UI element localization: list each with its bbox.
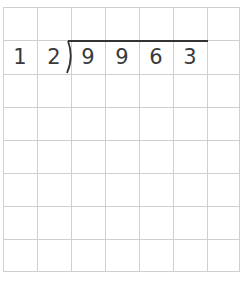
grid-line [4,107,239,108]
dividend-digit: 3 [173,40,207,74]
grid-line [4,74,239,75]
dividend-digit: 6 [139,40,173,74]
grid-line [4,206,239,207]
dividend-digit: 9 [71,40,105,74]
grid-line [4,140,239,141]
dividend-digit: 9 [105,40,139,74]
grid-line [4,239,239,240]
divisor-digit: 1 [3,40,37,74]
grid-line [4,173,239,174]
